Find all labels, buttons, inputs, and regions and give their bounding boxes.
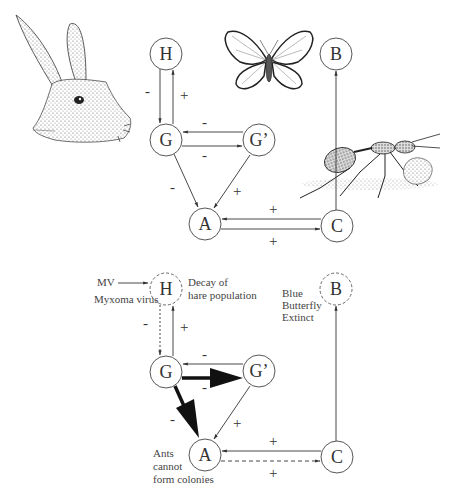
svg-text:H: H: [160, 279, 173, 299]
sign-gp-to-g: -: [202, 346, 207, 362]
butterfly-illustration: [225, 31, 312, 88]
bottom-node-b: B: [320, 273, 352, 305]
sign-g-to-a: -: [170, 179, 175, 195]
sign-gp-to-a: +: [233, 183, 241, 199]
label-butterfly-line2: Butterfly: [282, 299, 322, 311]
label-decay-line2: hare population: [188, 289, 257, 301]
svg-text:C: C: [331, 447, 343, 467]
sign-a-to-c: +: [269, 233, 277, 249]
label-decay-line1: Decay of: [188, 276, 228, 288]
sign-c-to-a: +: [269, 201, 277, 217]
top-node-b: B: [320, 38, 352, 70]
svg-text:A: A: [199, 445, 212, 465]
sign-h-to-g: -: [143, 315, 148, 331]
svg-text:G’: G’: [250, 130, 269, 150]
label-butterfly-line3: Extinct: [282, 311, 314, 323]
svg-text:G: G: [160, 130, 173, 150]
bottom-diagram: H B G G’ A C - + - - - + + + MV: [94, 273, 353, 485]
top-node-h: H: [150, 38, 182, 70]
label-butterfly-line1: Blue: [282, 287, 303, 299]
sign-g-to-h: +: [180, 87, 188, 103]
sign-g-to-a: -: [170, 411, 175, 427]
svg-text:A: A: [199, 214, 212, 234]
svg-text:H: H: [160, 44, 173, 64]
svg-text:C: C: [331, 216, 343, 236]
sign-c-to-a: +: [269, 433, 277, 449]
hare-illustration: [16, 15, 131, 142]
sign-h-to-g: -: [145, 83, 150, 99]
sign-g-to-gp: -: [202, 147, 207, 163]
sign-g-to-h: +: [180, 319, 188, 335]
top-node-c: C: [321, 210, 353, 242]
ant-illustration: [300, 134, 440, 198]
label-myxoma-virus: Myxoma virus: [94, 293, 158, 305]
top-diagram: H B G G’ A C - + - - - + + +: [16, 15, 440, 249]
bottom-node-a: A: [189, 439, 221, 471]
ecological-interaction-diagram: H B G G’ A C - + - - - + + +: [0, 0, 464, 492]
svg-text:B: B: [330, 44, 342, 64]
top-node-g: G: [150, 124, 182, 156]
bottom-node-c: C: [321, 441, 353, 473]
top-node-a: A: [189, 208, 221, 240]
bottom-node-g: G: [150, 356, 182, 388]
label-ants-line2: cannot: [153, 460, 182, 472]
top-node-g-prime: G’: [243, 124, 275, 156]
svg-text:B: B: [330, 279, 342, 299]
svg-text:G’: G’: [250, 361, 269, 381]
svg-text:G: G: [160, 362, 173, 382]
label-ants-line1: Ants: [153, 447, 174, 459]
bottom-node-g-prime: G’: [243, 355, 275, 387]
thick-arrow-g-to-a: [175, 386, 199, 438]
sign-g-to-gp: -: [202, 379, 207, 395]
label-mv: MV: [97, 276, 115, 288]
sign-a-to-c: +: [269, 465, 277, 481]
label-ants-line3: form colonies: [153, 473, 214, 485]
thick-arrow-g-to-gp: [182, 368, 243, 388]
sign-gp-to-a: +: [233, 415, 241, 431]
sign-gp-to-g: -: [202, 114, 207, 130]
